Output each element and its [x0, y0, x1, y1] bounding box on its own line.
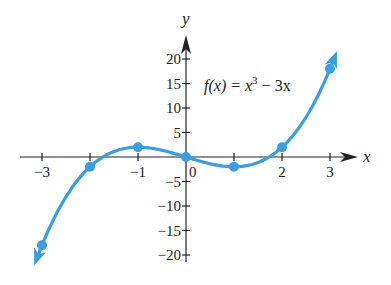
y-tick-label: −5 — [165, 174, 181, 190]
equation-rest: − 3x — [258, 77, 291, 94]
x-tick-label: −3 — [34, 164, 50, 180]
x-tick-label: −1 — [130, 164, 146, 180]
equation-base: x — [244, 77, 252, 94]
data-point — [85, 162, 95, 172]
chart-canvas: −3−10232015105−5−10−15−20 x y f(x) = x3 … — [0, 0, 391, 285]
y-tick-label: −10 — [158, 198, 181, 214]
y-tick-label: −15 — [158, 223, 181, 239]
data-point — [133, 142, 143, 152]
data-point — [325, 64, 335, 74]
y-tick-label: 5 — [174, 125, 182, 141]
equation-lhs: f(x) = — [204, 77, 245, 95]
axes — [20, 35, 358, 262]
data-point — [229, 162, 239, 172]
data-point — [277, 142, 287, 152]
y-tick-label: 15 — [166, 76, 181, 92]
y-tick-label: 20 — [166, 51, 181, 67]
x-tick-label: 2 — [278, 164, 286, 180]
y-axis-label: y — [180, 9, 190, 28]
data-point — [181, 152, 191, 162]
y-tick-label: 10 — [166, 100, 181, 116]
data-point — [37, 240, 47, 250]
x-tick-label: 3 — [326, 164, 334, 180]
function-equation-label: f(x) = x3 − 3x — [204, 74, 291, 95]
x-axis-label: x — [362, 147, 371, 166]
x-tick-label: 0 — [189, 164, 197, 180]
y-tick-label: −20 — [158, 247, 181, 263]
